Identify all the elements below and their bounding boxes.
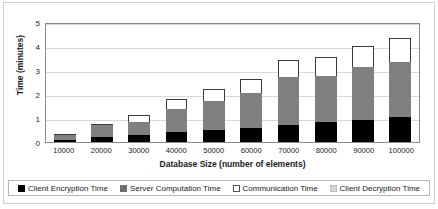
bar-segment xyxy=(203,89,225,101)
bar-slot xyxy=(84,24,119,142)
bar-slot xyxy=(122,24,157,142)
legend-item[interactable]: Communication Time xyxy=(233,184,318,193)
stacked-bar[interactable] xyxy=(166,99,188,142)
legend-item[interactable]: Client Encryption Time xyxy=(18,184,108,193)
stacked-bar[interactable] xyxy=(315,57,337,142)
legend-label: Server Computation Time xyxy=(130,184,221,193)
bar-segment xyxy=(128,122,150,136)
legend-label: Communication Time xyxy=(243,184,318,193)
stacked-bar[interactable] xyxy=(240,79,262,142)
legend-swatch-icon xyxy=(120,185,127,192)
bar-segment xyxy=(278,77,300,125)
bar-slot xyxy=(234,24,269,142)
bar-segment xyxy=(315,57,337,76)
stacked-bar[interactable] xyxy=(54,134,76,142)
bar-segment xyxy=(240,128,262,142)
bar-segment xyxy=(352,46,374,67)
bar-segment xyxy=(128,135,150,142)
bar-segment xyxy=(389,117,411,142)
stacked-bar[interactable] xyxy=(352,46,374,142)
bar-segment xyxy=(278,125,300,142)
bar-slot xyxy=(346,24,381,142)
bar-segment xyxy=(389,38,411,62)
bar-segment xyxy=(315,122,337,142)
y-tick-label: 2 xyxy=(22,91,40,100)
stacked-bar[interactable] xyxy=(128,115,150,142)
bar-segment xyxy=(91,137,113,142)
bar-slot xyxy=(271,24,306,142)
legend-label: Client Encryption Time xyxy=(28,184,108,193)
plot-area xyxy=(45,23,420,143)
y-tick-label: 5 xyxy=(22,19,40,28)
bar-segment xyxy=(352,67,374,120)
bar-segment xyxy=(203,101,225,130)
bar-slot xyxy=(383,24,418,142)
x-tick-label: 90000 xyxy=(346,146,381,158)
chart-legend: Client Encryption TimeServer Computation… xyxy=(8,180,430,196)
legend-swatch-icon xyxy=(233,185,240,192)
bar-segment xyxy=(91,125,113,137)
legend-swatch-icon xyxy=(330,185,337,192)
bar-group xyxy=(46,24,419,142)
x-tick-label: 80000 xyxy=(309,146,344,158)
x-tick-label: 10000 xyxy=(46,146,81,158)
x-tick-label: 20000 xyxy=(84,146,119,158)
stacked-bar[interactable] xyxy=(203,89,225,142)
bar-segment xyxy=(352,120,374,142)
x-tick-label: 30000 xyxy=(121,146,156,158)
legend-item[interactable]: Client Decryption Time xyxy=(330,184,420,193)
y-tick-label: 4 xyxy=(22,43,40,52)
bar-segment xyxy=(166,99,188,109)
bar-slot xyxy=(308,24,343,142)
bar-slot xyxy=(159,24,194,142)
y-tick-label: 3 xyxy=(22,67,40,76)
x-tick-label: 40000 xyxy=(159,146,194,158)
bar-slot xyxy=(196,24,231,142)
stacked-bar[interactable] xyxy=(278,60,300,142)
legend-swatch-icon xyxy=(18,185,25,192)
y-tick-label: 0 xyxy=(22,139,40,148)
bar-segment xyxy=(203,130,225,142)
x-tick-label: 50000 xyxy=(196,146,231,158)
bar-slot xyxy=(47,24,82,142)
y-tick-label: 1 xyxy=(22,115,40,124)
y-axis-tick-labels: 012345 xyxy=(22,18,40,144)
chart-figure: Time (minutes) 012345 100002000030000400… xyxy=(0,0,438,209)
bar-segment xyxy=(389,62,411,117)
x-axis-tick-labels: 1000020000300004000050000600007000080000… xyxy=(45,146,420,158)
bar-segment xyxy=(166,132,188,142)
x-tick-label: 100000 xyxy=(384,146,419,158)
x-tick-label: 60000 xyxy=(234,146,269,158)
bar-segment xyxy=(240,79,262,93)
x-tick-label: 70000 xyxy=(271,146,306,158)
bar-segment xyxy=(278,60,300,76)
legend-label: Client Decryption Time xyxy=(340,184,420,193)
x-axis-title: Database Size (number of elements) xyxy=(45,159,420,169)
bar-segment xyxy=(315,76,337,123)
stacked-bar[interactable] xyxy=(91,124,113,142)
bar-segment xyxy=(240,93,262,128)
bar-segment xyxy=(166,109,188,132)
bar-segment xyxy=(54,140,76,142)
legend-item[interactable]: Server Computation Time xyxy=(120,184,221,193)
stacked-bar[interactable] xyxy=(389,38,411,142)
